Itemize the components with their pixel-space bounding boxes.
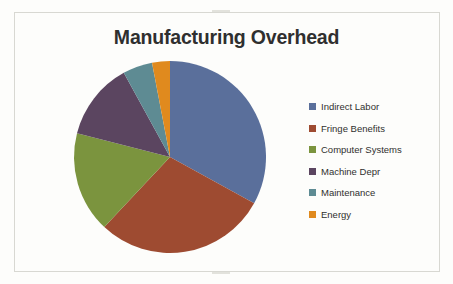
legend-item[interactable]: Energy [309, 204, 439, 226]
legend-item[interactable]: Indirect Labor [309, 96, 439, 118]
legend-item-label: Indirect Labor [321, 102, 379, 112]
pie-chart-svg [60, 58, 282, 258]
legend-item-label: Machine Depr [321, 167, 380, 177]
legend-item[interactable]: Maintenance [309, 182, 439, 204]
legend-swatch-icon [309, 146, 316, 153]
slide-canvas: Manufacturing Overhead Indirect LaborFri… [0, 0, 453, 284]
legend-item-label: Computer Systems [321, 145, 402, 155]
chart-legend: Indirect LaborFringe BenefitsComputer Sy… [309, 96, 439, 225]
legend-swatch-icon [309, 125, 316, 132]
legend-swatch-icon [309, 168, 316, 175]
legend-item[interactable]: Computer Systems [309, 139, 439, 161]
legend-item[interactable]: Fringe Benefits [309, 118, 439, 140]
legend-swatch-icon [309, 103, 316, 110]
legend-item-label: Energy [321, 210, 351, 220]
pie-chart-plot-area [60, 58, 282, 258]
pie-slice-group [74, 61, 266, 253]
page-tick-top [212, 10, 230, 12]
legend-item[interactable]: Machine Depr [309, 161, 439, 183]
legend-item-label: Fringe Benefits [321, 124, 385, 134]
legend-swatch-icon [309, 211, 316, 218]
chart-title: Manufacturing Overhead [0, 26, 453, 49]
page-tick-bottom [212, 272, 230, 274]
legend-item-label: Maintenance [321, 188, 375, 198]
legend-swatch-icon [309, 189, 316, 196]
